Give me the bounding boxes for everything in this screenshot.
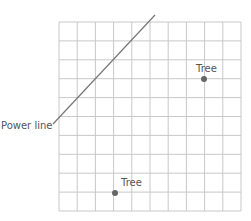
- tree-label-1: Tree: [196, 64, 217, 74]
- grid: [59, 22, 241, 211]
- power-line: [53, 15, 155, 124]
- tree-point-1: [201, 76, 207, 82]
- tree-label-2: Tree: [121, 178, 142, 188]
- power-line-label: Power line: [1, 121, 52, 131]
- tree-point-2: [112, 190, 118, 196]
